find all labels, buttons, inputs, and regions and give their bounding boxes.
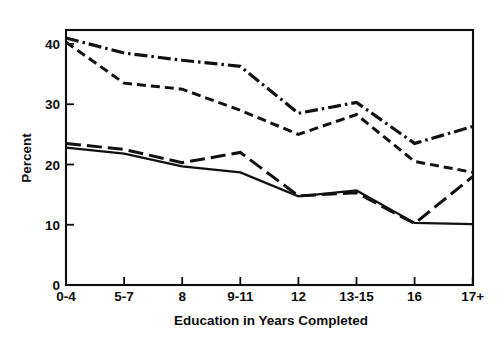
x-tick-label-1: 5-7 xyxy=(114,289,134,304)
x-tick-label-6: 16 xyxy=(407,289,423,304)
x-tick-label-2: 8 xyxy=(178,289,186,304)
y-tick-label-10: 10 xyxy=(45,218,60,233)
x-tick-label-0: 0-4 xyxy=(56,289,76,304)
x-tick-label-3: 9-11 xyxy=(227,289,254,304)
y-tick-label-20: 20 xyxy=(45,158,60,173)
x-axis-title: Education in Years Completed xyxy=(174,313,368,328)
x-tick-label-4: 12 xyxy=(291,289,306,304)
y-tick-label-40: 40 xyxy=(45,37,60,52)
x-tick-label-7: 17+ xyxy=(461,289,484,304)
y-axis-title: Percent xyxy=(19,133,34,183)
y-tick-label-30: 30 xyxy=(45,97,60,112)
chart-figure: 0 10 20 30 40 0-4 5-7 8 9-11 12 13-15 16 xyxy=(0,0,504,353)
line-chart: 0 10 20 30 40 0-4 5-7 8 9-11 12 13-15 16 xyxy=(0,0,504,353)
x-tick-label-5: 13-15 xyxy=(339,289,374,304)
